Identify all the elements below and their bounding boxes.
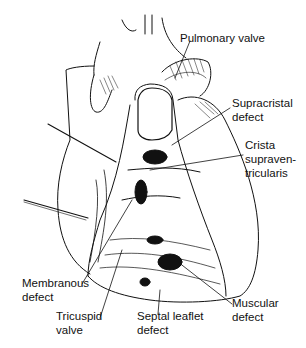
- label-line: Muscular: [232, 296, 279, 310]
- label-line: defect: [232, 110, 293, 124]
- label-supracristal-defect: Supracristal defect: [232, 96, 293, 124]
- label-line: defect: [232, 310, 279, 324]
- label-pulmonary-valve: Pulmonary valve: [180, 31, 265, 45]
- label-membranous-defect: Membranous defect: [22, 276, 89, 304]
- label-line: Septal leaflet: [137, 309, 204, 323]
- label-septal-leaflet-defect: Septal leaflet defect: [137, 309, 204, 337]
- label-line: Pulmonary valve: [180, 31, 265, 45]
- label-line: valve: [56, 323, 102, 337]
- label-line: defect: [137, 323, 204, 337]
- heart-diagram: Pulmonary valve Supracristal defect Cris…: [0, 0, 306, 348]
- label-line: tricularis: [245, 166, 296, 180]
- label-line: Supracristal: [232, 96, 293, 110]
- label-crista-supraventricularis: Crista supraven- tricularis: [245, 138, 296, 180]
- label-tricuspid-valve: Tricuspid valve: [56, 309, 102, 337]
- label-line: Membranous: [22, 276, 89, 290]
- label-line: defect: [22, 290, 89, 304]
- label-line: Tricuspid: [56, 309, 102, 323]
- label-muscular-defect: Muscular defect: [232, 296, 279, 324]
- label-line: supraven-: [245, 152, 296, 166]
- label-line: Crista: [245, 138, 296, 152]
